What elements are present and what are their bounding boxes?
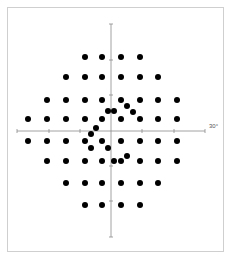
- grid-point: [137, 97, 143, 103]
- grid-point: [63, 116, 69, 122]
- grid-point: [82, 116, 88, 122]
- grid-point: [63, 74, 69, 80]
- grid-point: [63, 138, 69, 144]
- grid-point: [82, 138, 88, 144]
- grid-point: [44, 158, 50, 164]
- grid-point: [137, 180, 143, 186]
- grid-point: [174, 97, 180, 103]
- grid-point: [137, 138, 143, 144]
- grid-point: [25, 116, 31, 122]
- grid-point: [99, 97, 105, 103]
- grid-point: [63, 180, 69, 186]
- grid-point: [155, 74, 161, 80]
- grid-point: [82, 54, 88, 60]
- grid-point: [137, 54, 143, 60]
- grid-point: [137, 74, 143, 80]
- grid-point: [25, 138, 31, 144]
- extra-point: [111, 158, 117, 164]
- grid-point: [137, 116, 143, 122]
- grid-point: [174, 158, 180, 164]
- grid-point: [99, 138, 105, 144]
- grid-point: [82, 74, 88, 80]
- grid-point: [155, 116, 161, 122]
- grid-point: [155, 180, 161, 186]
- axes: [17, 24, 205, 237]
- extra-point: [130, 109, 136, 115]
- grid-point: [118, 180, 124, 186]
- grid-point: [99, 74, 105, 80]
- grid-point: [137, 158, 143, 164]
- grid-point: [99, 202, 105, 208]
- extra-point: [124, 103, 130, 109]
- extra-point: [111, 108, 117, 114]
- grid-point: [118, 74, 124, 80]
- grid-point: [174, 116, 180, 122]
- grid-point: [155, 158, 161, 164]
- grid-point: [155, 97, 161, 103]
- grid-point: [63, 97, 69, 103]
- grid-point: [44, 138, 50, 144]
- grid-point: [99, 116, 105, 122]
- grid-point: [44, 116, 50, 122]
- visual-field-plot: [0, 0, 231, 261]
- grid-point: [82, 97, 88, 103]
- grid-point: [118, 138, 124, 144]
- extra-point: [88, 145, 94, 151]
- grid-point: [99, 54, 105, 60]
- grid-point: [118, 202, 124, 208]
- grid-point: [82, 202, 88, 208]
- grid-point: [44, 97, 50, 103]
- grid-point: [155, 138, 161, 144]
- grid-point: [118, 54, 124, 60]
- grid-point: [118, 158, 124, 164]
- extra-point: [124, 153, 130, 159]
- extra-point: [93, 125, 99, 131]
- grid-point: [99, 158, 105, 164]
- grid-point: [99, 180, 105, 186]
- grid-point: [174, 138, 180, 144]
- extra-point: [105, 145, 111, 151]
- extra-point: [88, 131, 94, 137]
- grid-point: [118, 116, 124, 122]
- grid-point: [137, 202, 143, 208]
- extra-point: [105, 108, 111, 114]
- grid-point: [82, 180, 88, 186]
- grid-point: [82, 158, 88, 164]
- grid-point: [63, 158, 69, 164]
- grid-point: [118, 97, 124, 103]
- axis-label-30-degrees: 30°: [209, 123, 218, 129]
